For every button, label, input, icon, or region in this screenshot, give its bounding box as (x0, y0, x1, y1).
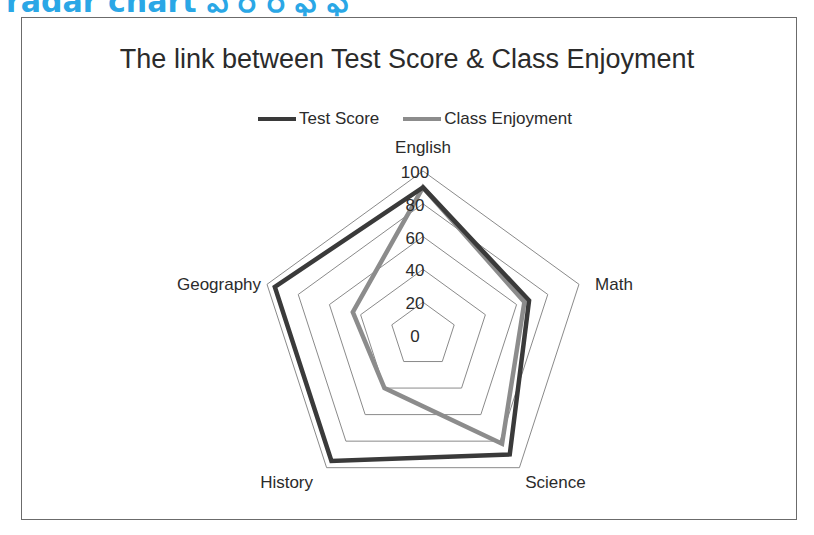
radial-tick-label: 0 (410, 327, 419, 346)
radar-series (275, 187, 529, 461)
radar-plot: 020406080100 EnglishMathScienceHistoryGe… (0, 0, 814, 535)
radial-tick-label: 40 (406, 261, 425, 280)
radial-tick-label: 100 (401, 163, 429, 182)
radial-tick-label: 80 (406, 196, 425, 215)
axis-label-history: History (260, 473, 313, 492)
axis-label-geography: Geography (177, 275, 262, 294)
axis-label-english: English (395, 138, 451, 157)
axis-label-science: Science (525, 473, 585, 492)
radial-tick-label: 20 (406, 294, 425, 313)
axis-label-math: Math (595, 275, 633, 294)
grid-ring (267, 171, 579, 468)
radial-tick-label: 60 (406, 229, 425, 248)
radar-grid (267, 171, 579, 468)
